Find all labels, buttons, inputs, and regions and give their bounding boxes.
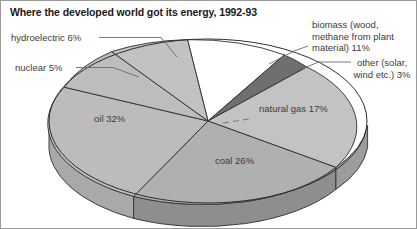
label-other: other (solar, wind etc.) 3% [353, 57, 411, 80]
label-nuclear: nuclear 5% [15, 62, 63, 74]
label-hydroelectric: hydroelectric 6% [11, 32, 81, 44]
label-biomass: biomass (wood, methane from plant materi… [312, 19, 414, 54]
label-coal: coal 26% [215, 155, 254, 167]
label-oil: oil 32% [94, 113, 125, 125]
pie-chart-figure: Where the developed world got its energy… [0, 0, 417, 229]
label-natural-gas: natural gas 17% [259, 103, 328, 115]
